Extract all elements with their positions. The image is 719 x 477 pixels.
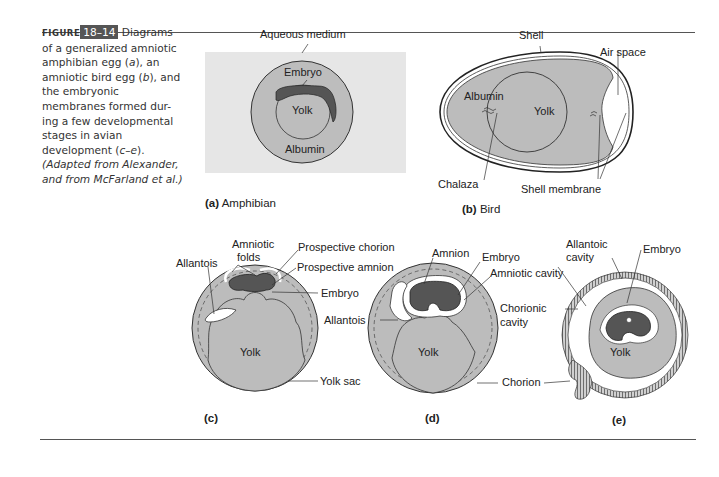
- panel-c-caption: (c): [204, 412, 218, 424]
- label-chorionic-cavity-2: cavity: [500, 316, 529, 328]
- yolk-circle: [487, 72, 567, 152]
- label-allantoic-cavity-2: cavity: [566, 251, 595, 263]
- label-yolk-sac: Yolk sac: [320, 375, 361, 387]
- label-albumin: Albumin: [285, 143, 325, 155]
- label-embryo: Embryo: [482, 251, 520, 263]
- panel-b-caption: (b) Bird: [462, 203, 500, 215]
- label-amniotic-cavity: Amniotic cavity: [490, 267, 564, 279]
- label-amnion: Amnion: [432, 247, 469, 259]
- label-chorion: Chorion: [502, 376, 541, 388]
- panel-b-bird: Shell Air space Albumin Yolk Chalaza She…: [438, 29, 646, 215]
- figure-diagrams: Aqueous medium Embryo Yolk Albumin (a) A…: [0, 0, 719, 477]
- label-prospective-chorion: Prospective chorion: [298, 241, 395, 253]
- label-albumin: Albumin: [464, 90, 504, 102]
- label-prospective-amnion: Prospective amnion: [297, 261, 394, 273]
- panel-a-amphibian: Aqueous medium Embryo Yolk Albumin (a) A…: [205, 28, 406, 209]
- label-chalaza: Chalaza: [438, 178, 479, 190]
- label-shell: Shell: [519, 29, 543, 41]
- label-chorionic-cavity-1: Chorionic: [500, 302, 547, 314]
- panel-c: Amniotic folds Prospective chorion Allan…: [176, 238, 395, 424]
- label-yolk: Yolk: [418, 346, 439, 358]
- label-yolk: Yolk: [292, 104, 313, 116]
- label-allantois: Allantois: [176, 257, 218, 269]
- label-amniotic-folds-1: Amniotic: [232, 238, 275, 250]
- label-yolk: Yolk: [534, 105, 555, 117]
- panel-e-caption: (e): [612, 414, 626, 426]
- label-shell-membrane: Shell membrane: [521, 183, 601, 195]
- label-allantois: Allantois: [324, 314, 366, 326]
- label-yolk: Yolk: [240, 346, 261, 358]
- panel-a-caption: (a) Amphibian: [205, 197, 276, 209]
- label-embryo: Embryo: [284, 66, 322, 78]
- label-amniotic-folds-2: folds: [237, 251, 261, 263]
- label-aqueous-medium: Aqueous medium: [260, 28, 346, 40]
- panel-d-caption: (d): [425, 412, 440, 424]
- panel-d: Amnion Embryo Amniotic cavity Allantois …: [324, 247, 564, 424]
- label-air-space: Air space: [600, 46, 646, 58]
- label-embryo: Embryo: [321, 287, 359, 299]
- label-allantoic-cavity-1: Allantoic: [566, 238, 608, 250]
- label-yolk: Yolk: [610, 346, 631, 358]
- label-embryo: Embryo: [643, 243, 681, 255]
